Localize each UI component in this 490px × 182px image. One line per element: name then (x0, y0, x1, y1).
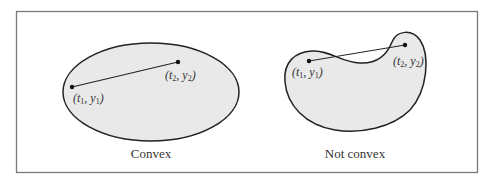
not-convex-point-1 (307, 59, 311, 63)
convex-point-2-label: (t2, y2) (165, 68, 196, 83)
convexity-diagram: (t1, y1) (t2, y2) Convex (t1, y1) (t2, y… (0, 0, 490, 182)
not-convex-point-2 (403, 43, 407, 47)
not-convex-point-2-label: (t2, y2) (393, 54, 424, 69)
convex-point-1 (70, 85, 74, 89)
convex-point-2 (176, 60, 180, 64)
not-convex-point-1-label: (t1, y1) (292, 65, 323, 80)
convex-caption: Convex (131, 146, 172, 161)
convex-point-1-label: (t1, y1) (73, 91, 104, 106)
not-convex-caption: Not convex (325, 146, 386, 161)
